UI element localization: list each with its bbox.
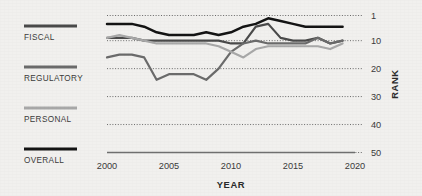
- legend-label-fiscal: FISCAL: [24, 33, 55, 42]
- x-tick-2015: 2015: [283, 161, 303, 171]
- y-tick-40: 40: [371, 120, 381, 130]
- y-tick-20: 20: [371, 64, 381, 74]
- legend-label-overall: OVERALL: [24, 156, 64, 165]
- series-line-personal: [107, 35, 343, 57]
- x-axis-title: YEAR: [217, 179, 245, 190]
- y-tick-10: 10: [371, 36, 381, 46]
- rank-over-time-line-chart: 11020304050 20002005201020152020 YEAR RA…: [0, 0, 422, 196]
- y-axis-tick-labels: 11020304050: [371, 11, 381, 158]
- y-tick-1: 1: [371, 11, 376, 21]
- legend-label-personal: PERSONAL: [24, 115, 71, 124]
- y-tick-30: 30: [371, 92, 381, 102]
- x-tick-2005: 2005: [159, 161, 179, 171]
- data-series-group: [107, 18, 343, 80]
- x-tick-2000: 2000: [97, 161, 117, 171]
- x-tick-2010: 2010: [221, 161, 241, 171]
- gridlines-group: [107, 16, 363, 153]
- y-tick-50: 50: [371, 148, 381, 158]
- y-axis-title: RANK: [389, 69, 400, 98]
- series-line-overall: [107, 18, 343, 35]
- series-line-regulatory: [107, 38, 343, 80]
- legend: FISCALREGULATORYPERSONALOVERALL: [24, 26, 83, 165]
- legend-label-regulatory: REGULATORY: [24, 74, 83, 83]
- x-tick-2020: 2020: [345, 161, 365, 171]
- chart-container: 11020304050 20002005201020152020 YEAR RA…: [0, 0, 422, 196]
- x-axis-tick-labels: 20002005201020152020: [97, 161, 365, 171]
